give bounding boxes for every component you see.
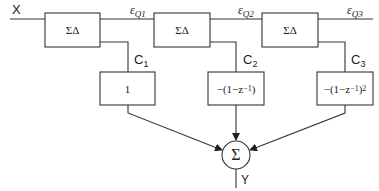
coef-branch-3 [318,42,345,72]
summer-label: Σ [222,141,250,169]
coef-label-1: C1 [134,53,148,69]
output-label: Y [241,174,249,186]
coef-label-3: C3 [351,53,365,69]
arrow-3 [250,105,345,150]
filter-label-2: −(1−z−1) [208,72,264,105]
filter-label-1: 1 [100,72,155,105]
input-label: X [12,3,21,16]
error-label-1: εQ1 [130,4,146,19]
error-label-2: εQ2 [238,4,254,19]
sd-label-3: ΣΔ [262,13,318,47]
error-label-3: εQ3 [347,4,363,19]
filter-label-3: −(1−z−1)2 [317,72,373,105]
coef-label-2: C2 [243,53,257,69]
sd-label-2: ΣΔ [154,13,210,47]
arrow-1 [128,105,222,150]
coef-branch-1 [100,42,128,72]
coef-branch-2 [210,42,236,72]
sd-label-1: ΣΔ [45,13,100,47]
